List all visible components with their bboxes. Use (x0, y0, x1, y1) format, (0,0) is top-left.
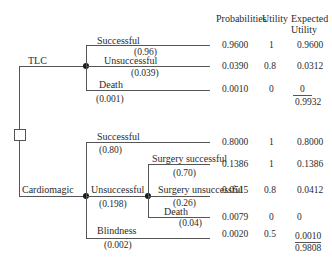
tlc-unsuccessful-line (86, 66, 210, 67)
surgery-death-label: Death (164, 206, 188, 217)
square-decision-node-icon[interactable] (14, 129, 26, 141)
tlc-unsuccessful-prob: (0.039) (131, 68, 159, 79)
cm-successful-label: Successful (97, 131, 140, 142)
tlc-successful-label: Successful (97, 35, 140, 46)
tlc-successful-expected: 0.9600 (297, 40, 323, 51)
cm-blindness-probability: 0.0020 (222, 229, 248, 240)
option-cardiomagic-label: Cardiomagic (22, 184, 74, 195)
surgery-successful-expected: 0.1386 (297, 159, 323, 170)
tlc-successful-probability: 0.9600 (222, 40, 248, 51)
tlc-death-prob: (0.001) (96, 94, 124, 105)
cm-blindness-expected: 0.0010 (295, 231, 321, 243)
cm-successful-probability: 0.8000 (222, 137, 248, 148)
surgery-unsuccessful-line (148, 196, 210, 197)
surgery-successful-prob: (0.70) (173, 168, 196, 179)
cm-successful-utility: 1 (269, 137, 274, 148)
cm-unsuccessful-prob: (0.198) (99, 199, 127, 210)
cm-unsuccessful-line (86, 196, 148, 197)
header-expected-utility-1: Expected (291, 13, 328, 24)
cm-successful-expected: 0.8000 (297, 137, 323, 148)
cm-total-expected: 0.9808 (295, 243, 321, 254)
tlc-chance-vertical (86, 45, 87, 90)
surgery-unsuccessful-utility: 0.8 (264, 185, 276, 196)
tlc-unsuccessful-expected: 0.0312 (297, 61, 323, 72)
cm-successful-prob: (0.80) (99, 145, 122, 156)
cm-successful-line (86, 142, 210, 143)
surgery-death-probability: 0.0079 (222, 212, 248, 223)
tlc-successful-utility: 1 (269, 40, 274, 51)
surgery-successful-line (148, 164, 210, 165)
cardiomagic-line (19, 196, 86, 197)
surgery-successful-label: Surgery successful (152, 153, 227, 164)
header-probabilities: Probabilities (216, 13, 267, 24)
surgery-death-prob: (0.04) (179, 218, 202, 229)
tlc-line (19, 66, 86, 67)
cardiomagic-chance-vertical (86, 142, 87, 238)
surgery-successful-probability: 0.1386 (222, 159, 248, 170)
tlc-unsuccessful-utility: 0.8 (264, 61, 276, 72)
cm-unsuccessful-label: Unsuccessful (91, 184, 144, 195)
cm-blindness-utility: 0.5 (264, 229, 276, 240)
surgery-successful-utility: 1 (269, 159, 274, 170)
header-expected-utility-2: Utility (291, 24, 317, 35)
cm-blindness-prob: (0.002) (104, 240, 132, 251)
tlc-death-expected: 0 (293, 84, 312, 96)
tlc-unsuccessful-probability: 0.0390 (222, 61, 248, 72)
header-utility: Utility (262, 13, 288, 24)
surgery-death-utility: 0 (269, 212, 274, 223)
tlc-death-label: Death (99, 79, 123, 90)
surgery-chance-vertical (148, 164, 149, 217)
surgery-unsuccessful-expected: 0.0412 (297, 185, 323, 196)
tlc-unsuccessful-label: Unsuccessful (104, 55, 157, 66)
tlc-total-expected: 0.9932 (295, 97, 321, 108)
tlc-death-line (86, 90, 210, 91)
surgery-unsuccessful-probability: 0.0515 (222, 185, 248, 196)
cm-blindness-label: Blindness (97, 225, 136, 236)
option-tlc-label: TLC (28, 55, 47, 66)
surgery-death-expected: 0 (297, 212, 302, 223)
tlc-death-utility: 0 (269, 84, 274, 95)
tlc-death-probability: 0.0010 (222, 84, 248, 95)
cm-blindness-line (86, 238, 210, 239)
